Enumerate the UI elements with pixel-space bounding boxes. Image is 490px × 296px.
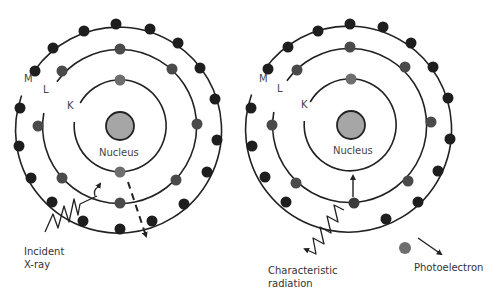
transition-electron [349,198,360,209]
left-m-shell-label: M [24,72,33,85]
incident-xray-label-line1: Incident [24,245,64,258]
left-k-electron-ejected [115,167,126,178]
right-atom [246,19,456,255]
left-nucleus [106,112,134,140]
photoelectron-arrow [418,238,441,254]
right-m-shell-label: M [259,72,268,85]
characteristic-radiation-wave [305,205,344,254]
left-k-shell-label: K [67,99,74,112]
left-atom [14,19,223,237]
left-l-shell-label: L [43,83,49,96]
right-nucleus [337,111,365,139]
photoelectric-diagram [0,0,490,296]
incident-xray-label-line2: X-ray [24,258,50,271]
right-l-shell-label: L [277,82,283,95]
right-k-electron [346,74,357,85]
photoelectron-label: Photoelectron [414,261,483,274]
ejection-path-dashed [128,182,146,236]
right-k-shell-label: K [301,98,308,111]
scatter-arrow [94,184,100,196]
right-nucleus-label: Nucleus [333,144,373,157]
characteristic-radiation-label-line1: Characteristic [268,264,338,277]
left-k-electron [115,75,126,86]
left-nucleus-label: Nucleus [99,146,139,159]
photoelectron [399,242,411,254]
characteristic-radiation-label-line2: radiation [268,277,313,290]
